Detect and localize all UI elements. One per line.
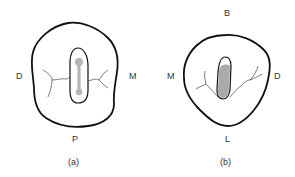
label-a-bottom: P [72,134,78,144]
label-b-bottom: L [225,134,230,144]
nerve-line-right-a [88,70,108,88]
label-b-left: M [167,71,175,81]
caption-b: (b) [220,157,231,167]
nerve-line-right-b [230,66,262,97]
figure-b: B M D L (b) [167,8,281,167]
label-a-left: D [16,71,23,81]
pulp-chamber-b [218,65,230,99]
tooth-diagram-figure: D M P (a) B M D L (b) [0,0,295,177]
label-a-right: M [129,71,137,81]
figure-a: D M P (a) [16,23,137,167]
nerve-line-left-a [43,70,70,97]
label-b-right: D [274,71,281,81]
caption-a: (a) [68,157,79,167]
label-b-top: B [224,8,230,18]
nerve-line-left-b [196,71,218,97]
